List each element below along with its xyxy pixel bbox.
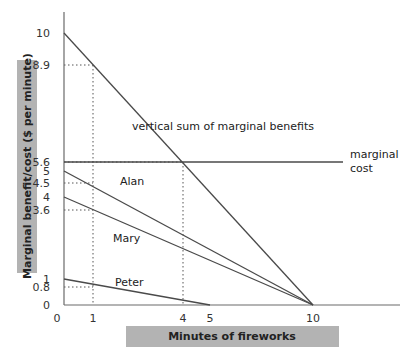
vertical-sum-label: vertical sum of marginal benefits [132, 120, 314, 133]
series-lines [64, 33, 343, 305]
mary-label: Mary [113, 232, 141, 245]
chart: Marginal benefit/cost ($ per minute) Min… [0, 0, 418, 362]
peter-label: Peter [115, 276, 144, 289]
x-tick-label: 4 [180, 312, 187, 325]
tick-labels: 00.813.644.555.68.910014510 [33, 27, 321, 325]
y-tick-label: 1 [43, 273, 50, 286]
y-tick-label: 3.6 [33, 204, 51, 217]
y-tick-label: 10 [36, 27, 50, 40]
x-tick-label: 1 [90, 312, 97, 325]
y-tick-label: 0 [43, 299, 50, 312]
y-tick-label: 5.6 [33, 156, 51, 169]
x-axis-title: Minutes of fireworks [168, 330, 296, 343]
series-mary [64, 197, 313, 305]
x-tick-label: 10 [306, 312, 320, 325]
marginal-cost-label-line2: cost [350, 162, 374, 175]
x-tick-label: 5 [207, 312, 214, 325]
series-vertical-sum-of-marginal-benefits [64, 33, 313, 305]
series-alan [64, 171, 313, 305]
marginal-cost-label-line1: marginal [350, 148, 399, 161]
y-tick-label: 4.5 [33, 177, 51, 190]
y-tick-label: 8.9 [33, 59, 51, 72]
y-tick-label: 4 [43, 191, 50, 204]
alan-label: Alan [120, 175, 144, 188]
x-tick-label: 0 [54, 312, 61, 325]
